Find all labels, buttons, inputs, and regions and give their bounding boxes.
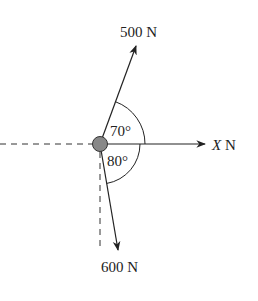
force-diagram: 500 N X N 600 N 70° 80° [0, 0, 258, 301]
label-x-n: X N [211, 137, 236, 153]
label-500n: 500 N [120, 24, 157, 40]
label-x-unit: N [221, 137, 236, 153]
label-600n: 600 N [101, 259, 138, 275]
label-angle-80: 80° [107, 153, 128, 169]
particle [93, 137, 108, 152]
label-angle-70: 70° [110, 123, 131, 139]
